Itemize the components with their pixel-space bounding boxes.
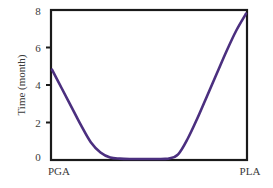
y-tick-label-8: 8 xyxy=(35,5,41,17)
x-label-pga: PGA xyxy=(48,165,70,177)
y-tick-label-4: 4 xyxy=(35,79,41,91)
y-tick-label-6: 6 xyxy=(35,42,41,54)
chart-svg: 8 6 4 2 0 Time (month) PGA PLA xyxy=(0,0,273,188)
chart-container: 8 6 4 2 0 Time (month) PGA PLA xyxy=(0,0,273,188)
x-label-pla: PLA xyxy=(240,165,261,177)
y-tick-label-2: 2 xyxy=(35,117,41,129)
y-tick-labels: 8 6 4 2 0 xyxy=(35,5,41,163)
data-curve xyxy=(52,14,246,159)
plot-frame xyxy=(51,10,247,160)
y-tick-label-0: 0 xyxy=(35,151,41,163)
y-axis-label: Time (month) xyxy=(15,54,28,115)
